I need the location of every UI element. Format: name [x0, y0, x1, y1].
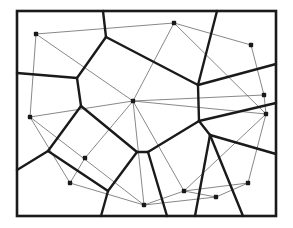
voronoi-edge — [210, 135, 243, 216]
site-point-p11 — [246, 181, 250, 185]
voronoi-edge — [148, 121, 199, 152]
voronoi-edge — [77, 78, 81, 106]
site-point-p2 — [172, 21, 176, 25]
site-point-p12 — [214, 195, 218, 199]
voronoi-edge — [17, 151, 48, 170]
voronoi-edge — [198, 64, 276, 85]
site-point-p8 — [83, 156, 87, 160]
delaunay-edge — [174, 23, 266, 114]
voronoi-edge — [48, 106, 81, 151]
site-point-p5 — [262, 93, 266, 97]
delaunay-edge — [30, 117, 144, 205]
voronoi-edge — [106, 37, 198, 85]
delaunay-edge — [184, 114, 266, 191]
site-point-p10 — [182, 189, 186, 193]
voronoi-edge — [101, 191, 108, 216]
voronoi-edge — [17, 73, 77, 78]
site-point-p13 — [142, 203, 146, 207]
voronoi-cell-edges — [17, 11, 276, 216]
site-point-p7 — [28, 115, 32, 119]
site-point-p1 — [34, 32, 38, 36]
voronoi-edge — [103, 11, 106, 37]
voronoi-edge — [108, 152, 137, 191]
voronoi-edge — [198, 85, 199, 121]
voronoi-edge — [199, 121, 210, 135]
site-point-p9 — [68, 181, 72, 185]
bounding-frame — [17, 11, 276, 216]
voronoi-diagram — [0, 0, 293, 228]
voronoi-edge — [148, 152, 167, 216]
site-point-p6 — [264, 112, 268, 116]
site-point-p4 — [131, 99, 135, 103]
site-point-p3 — [249, 43, 253, 47]
voronoi-edge — [210, 135, 276, 154]
voronoi-edge — [81, 106, 137, 152]
voronoi-edge — [198, 11, 217, 85]
voronoi-edge — [195, 135, 210, 216]
